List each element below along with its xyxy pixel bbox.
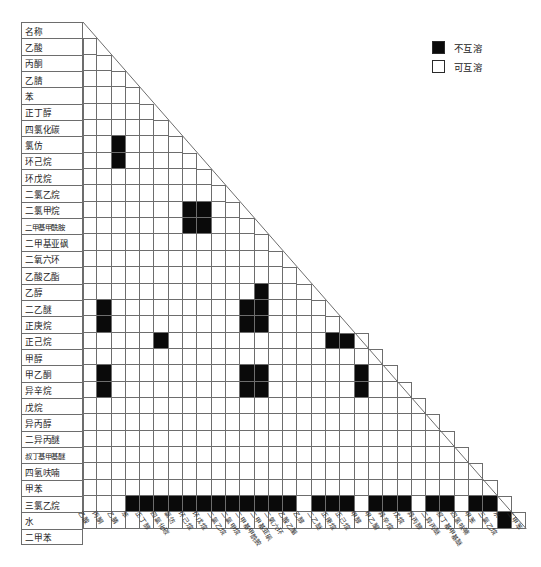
matrix-cell: [126, 284, 140, 300]
matrix-cell: [383, 398, 397, 414]
matrix-cell: [240, 300, 254, 316]
matrix-cell: [140, 463, 154, 479]
matrix-cell: [169, 300, 183, 316]
row-label-30: 二甲苯: [21, 529, 83, 545]
row-label-9: 二氯乙烷: [21, 185, 83, 201]
matrix-cell: [154, 153, 168, 169]
matrix-cell: [154, 480, 168, 496]
matrix-cell: [183, 480, 197, 496]
matrix-cell: [83, 38, 97, 54]
matrix-cell: [412, 447, 426, 463]
matrix-cell: [169, 414, 183, 430]
matrix-cell: [269, 300, 283, 316]
matrix-cell: [297, 398, 311, 414]
matrix-cell: [426, 463, 440, 479]
matrix-cell: [169, 251, 183, 267]
matrix-cell: [355, 333, 369, 349]
matrix-cell: [183, 316, 197, 332]
matrix-cell: [283, 414, 297, 430]
matrix-cell: [297, 333, 311, 349]
matrix-cell: [112, 136, 126, 152]
matrix-row: [83, 300, 526, 316]
matrix-row: [83, 218, 526, 234]
matrix-cell: [340, 365, 354, 381]
matrix-cell: [269, 316, 283, 332]
matrix-cell: [126, 104, 140, 120]
matrix-cell: [355, 365, 369, 381]
matrix-row: [83, 431, 526, 447]
matrix-cell: [197, 463, 211, 479]
matrix-row: [83, 463, 526, 479]
matrix-cell: [212, 365, 226, 381]
matrix-row: [83, 316, 526, 332]
matrix-cell: [440, 480, 454, 496]
matrix-cell: [83, 153, 97, 169]
matrix-cell: [83, 71, 97, 87]
matrix-cell: [154, 365, 168, 381]
matrix-cell: [383, 463, 397, 479]
matrix-cell: [355, 447, 369, 463]
matrix-cell: [112, 202, 126, 218]
matrix-row: [83, 22, 526, 38]
matrix-cell: [312, 398, 326, 414]
matrix-cell: [83, 398, 97, 414]
matrix-cell: [312, 382, 326, 398]
matrix-cell: [126, 365, 140, 381]
matrix-cell: [398, 414, 412, 430]
matrix-cell: [283, 447, 297, 463]
matrix-cell: [112, 71, 126, 87]
matrix-cell: [426, 414, 440, 430]
matrix-cell: [326, 382, 340, 398]
matrix-cell: [369, 463, 383, 479]
matrix-cell: [312, 447, 326, 463]
row-label-4: 正丁醇: [21, 104, 83, 120]
matrix-cell: [297, 480, 311, 496]
matrix-cell: [269, 382, 283, 398]
matrix-cell: [355, 382, 369, 398]
matrix-cell: [97, 431, 111, 447]
matrix-cell: [240, 480, 254, 496]
matrix-cell: [255, 447, 269, 463]
matrix-cell: [297, 365, 311, 381]
matrix-cell: [226, 333, 240, 349]
matrix-cell: [326, 349, 340, 365]
matrix-cell: [326, 333, 340, 349]
column-label-29: 水: [491, 509, 503, 520]
matrix-cell: [255, 431, 269, 447]
matrix-cell: [240, 251, 254, 267]
miscibility-matrix: [83, 22, 526, 529]
matrix-cell: [97, 463, 111, 479]
matrix-cell: [312, 316, 326, 332]
matrix-cell: [326, 398, 340, 414]
matrix-cell: [240, 463, 254, 479]
matrix-cell: [183, 234, 197, 250]
matrix-cell: [355, 398, 369, 414]
matrix-cell: [197, 218, 211, 234]
matrix-cell: [426, 480, 440, 496]
matrix-cell: [112, 398, 126, 414]
matrix-cell: [126, 414, 140, 430]
matrix-cell: [169, 447, 183, 463]
matrix-row: [83, 349, 526, 365]
matrix-cell: [440, 463, 454, 479]
matrix-row: [83, 153, 526, 169]
matrix-cell: [140, 382, 154, 398]
matrix-cell: [83, 218, 97, 234]
matrix-cell: [312, 431, 326, 447]
matrix-cell: [97, 55, 111, 71]
matrix-cell: [340, 398, 354, 414]
matrix-cell: [83, 267, 97, 283]
matrix-cell: [355, 414, 369, 430]
row-label-22: 戊烷: [21, 398, 83, 414]
matrix-cell: [183, 300, 197, 316]
matrix-cell: [169, 463, 183, 479]
matrix-cell: [126, 463, 140, 479]
matrix-cell: [283, 480, 297, 496]
matrix-cell: [297, 300, 311, 316]
matrix-cell: [126, 136, 140, 152]
matrix-cell: [340, 349, 354, 365]
matrix-cell: [112, 218, 126, 234]
matrix-cell: [140, 218, 154, 234]
matrix-cell: [183, 218, 197, 234]
matrix-cell: [140, 153, 154, 169]
